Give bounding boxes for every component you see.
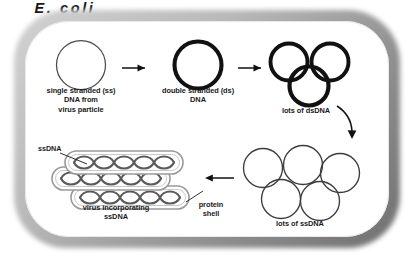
step-2-dsdna-circle [175, 42, 222, 89]
label-double-stranded-dna: double stranded (ds) DNA [146, 86, 250, 105]
arrow-1-right [122, 64, 145, 71]
label-lots-of-dsdna: lots of dsDNA [264, 106, 348, 115]
arrow-2-right [238, 64, 261, 71]
label-protein-shell: protein shell [188, 200, 234, 219]
step-4-lots-of-ssdna [244, 146, 360, 221]
label-ssdna-callout: ssDNA [38, 144, 82, 153]
label-single-stranded-dna: single stranded (ss) DNA from virus part… [26, 86, 136, 114]
arrow-4-left [205, 174, 234, 181]
label-virus-incorporating-ssdna: virus incorporating ssDNA [54, 203, 178, 222]
step-3-lots-of-dsdna [271, 44, 349, 106]
label-lots-of-ssdna: lots of ssDNA [252, 219, 348, 228]
step-1-ssdna-circle [57, 41, 106, 90]
diagram-canvas: single stranded (ss) DNA from virus part… [0, 0, 413, 260]
